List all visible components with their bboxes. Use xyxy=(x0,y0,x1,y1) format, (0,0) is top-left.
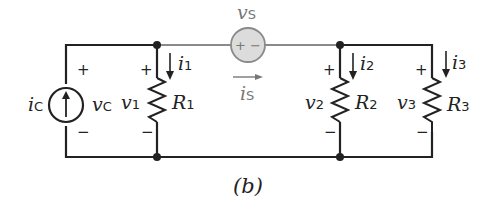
v3-label: v3 xyxy=(397,91,416,113)
ic-plus: + xyxy=(77,61,90,79)
is-arrow-icon xyxy=(233,74,263,80)
r3-minus: − xyxy=(416,123,429,141)
r3-plus: + xyxy=(415,61,428,79)
vs-label: vS xyxy=(237,1,256,23)
i3-arrow-icon xyxy=(442,51,450,78)
resistor-r2 xyxy=(332,78,348,122)
i3-label: i3 xyxy=(452,51,466,73)
current-source xyxy=(49,88,83,122)
i1-arrow-icon xyxy=(166,53,174,80)
r1-label: R1 xyxy=(171,91,195,113)
vc-label: vC xyxy=(92,93,112,115)
r3-label: R3 xyxy=(446,93,470,115)
r1-plus: + xyxy=(140,61,153,79)
i1-label: i1 xyxy=(178,52,192,74)
figure-caption: (b) xyxy=(233,174,263,198)
circuit-diagram: + − iC vC + − i1 v1 R1 + − vS iS + − i2 … xyxy=(0,0,495,215)
r1-minus: − xyxy=(141,123,154,141)
r2-plus: + xyxy=(323,61,336,79)
i2-arrow-icon xyxy=(349,53,357,80)
ic-label: iC xyxy=(28,93,43,115)
v2-label: v2 xyxy=(305,91,324,113)
r2-minus: − xyxy=(324,123,337,141)
is-label: iS xyxy=(240,82,254,104)
v1-label: v1 xyxy=(121,91,140,113)
r2-label: R2 xyxy=(354,91,378,113)
voltage-source: + − xyxy=(231,28,265,62)
circuit-figure: + − iC vC + − i1 v1 R1 + − vS iS + − i2 … xyxy=(0,0,495,215)
vs-polarity: + − xyxy=(235,38,261,53)
resistor-r1 xyxy=(149,78,165,122)
i2-label: i2 xyxy=(360,52,374,74)
ic-minus: − xyxy=(77,123,90,141)
